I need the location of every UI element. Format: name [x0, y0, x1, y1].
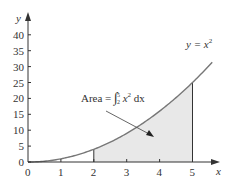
y-tick-label: 0: [19, 157, 25, 168]
x-tick-label: 3: [124, 167, 130, 178]
y-axis-arrow-icon: [25, 12, 31, 21]
y-tick-label: 10: [13, 125, 24, 136]
curve-label: y = x2: [186, 38, 212, 50]
y-tick-label: 25: [13, 78, 24, 89]
y-axis-label: y: [16, 13, 21, 24]
x-tick-label: 2: [91, 167, 97, 178]
y-tick-label: 40: [13, 30, 24, 41]
y-tick-label: 35: [13, 46, 24, 57]
area-label: Area = ∫52 x2 dx: [81, 91, 145, 106]
y-tick-label: 30: [13, 62, 24, 73]
y-tick-label: 20: [13, 93, 24, 104]
y-tick-label: 5: [19, 141, 25, 152]
x-tick-label: 1: [58, 167, 64, 178]
x-axis-label: x: [216, 166, 221, 177]
integral-diagram: y x 0510152025303540 012345 y = x2 Area …: [0, 0, 238, 186]
x-tick-label: 0: [25, 167, 31, 178]
y-tick-label: 15: [13, 109, 24, 120]
x-tick-label: 4: [157, 167, 163, 178]
x-tick-label: 5: [190, 167, 196, 178]
